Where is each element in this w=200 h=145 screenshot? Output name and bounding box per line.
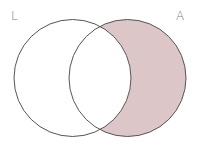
shaded-region-a-minus-l (69, 20, 186, 137)
set-l-label: L (11, 9, 18, 23)
venn-diagram: L A (0, 0, 200, 145)
set-a-label: A (176, 9, 184, 23)
